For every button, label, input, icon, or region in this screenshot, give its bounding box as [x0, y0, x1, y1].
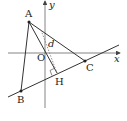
label-b: B: [17, 94, 24, 105]
geometry-diagram: A B C H O d x y: [0, 0, 127, 121]
segment-ab: [21, 22, 29, 91]
right-angle-marker: [50, 68, 55, 76]
label-c: C: [86, 62, 94, 73]
label-d: d: [48, 38, 54, 49]
point-a: [28, 21, 31, 24]
point-b: [20, 90, 23, 93]
label-h: H: [55, 76, 64, 87]
label-a: A: [24, 8, 33, 19]
label-y-axis: y: [48, 0, 55, 10]
label-origin: O: [37, 52, 45, 63]
label-x-axis: x: [114, 53, 120, 64]
